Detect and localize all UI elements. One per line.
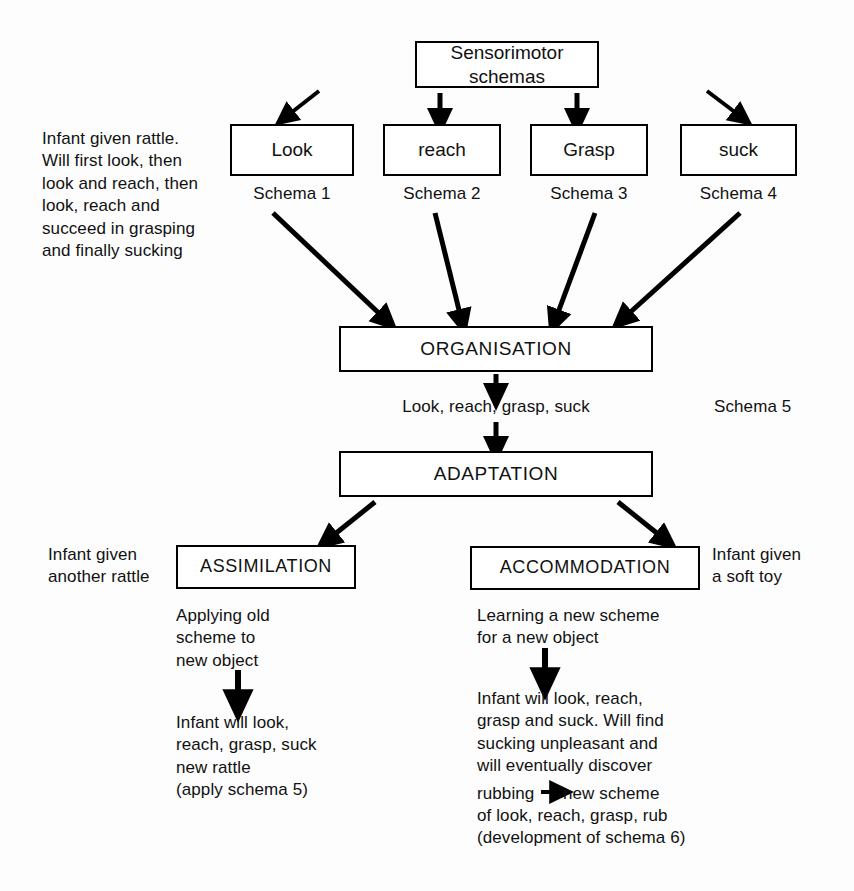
node-accommodation[interactable]: ACCOMMODATION — [470, 546, 700, 590]
node-reach-label: reach — [418, 138, 466, 161]
text-assimilation-description: Applying old scheme to new object — [176, 605, 366, 672]
caption-schema-5: Schema 5 — [714, 396, 791, 418]
note-infant-given-rattle: Infant given rattle. Will first look, th… — [42, 128, 247, 263]
node-reach[interactable]: reach — [383, 124, 501, 176]
node-assimilation-label: ASSIMILATION — [200, 556, 332, 578]
arrow-suck-to-organisation — [625, 213, 740, 317]
node-grasp-label: Grasp — [563, 138, 615, 161]
text-accommodation-outcome-new-scheme: new scheme — [563, 783, 763, 805]
node-adaptation[interactable]: ADAPTATION — [339, 451, 653, 497]
arrow-reach-to-organisation — [435, 213, 461, 318]
node-suck[interactable]: suck — [680, 124, 797, 176]
arrow-sensorimotor-to-suck — [707, 91, 740, 116]
note-infant-given-soft-toy: Infant given a soft toy — [712, 544, 842, 589]
node-organisation[interactable]: ORGANISATION — [339, 326, 653, 372]
node-assimilation[interactable]: ASSIMILATION — [176, 545, 356, 589]
node-sensorimotor-schemas-label: Sensorimotor schemas — [451, 41, 564, 87]
text-accommodation-outcome-part-2: of look, reach, grasp, rub (development … — [477, 805, 767, 850]
diagram-canvas: Sensorimotor schemas Look reach Grasp su… — [0, 0, 854, 891]
node-adaptation-label: ADAPTATION — [434, 462, 559, 485]
caption-schema-1: Schema 1 — [230, 183, 354, 205]
caption-schema-3: Schema 3 — [530, 183, 648, 205]
arrow-sensorimotor-to-look — [287, 91, 319, 116]
arrow-adaptation-to-assimilation — [330, 502, 375, 538]
node-look[interactable]: Look — [230, 124, 354, 176]
note-infant-given-another-rattle: Infant given another rattle — [48, 544, 178, 589]
caption-schema-4: Schema 4 — [680, 183, 797, 205]
node-grasp[interactable]: Grasp — [530, 124, 648, 176]
arrow-grasp-to-organisation — [556, 213, 595, 318]
node-accommodation-label: ACCOMMODATION — [500, 557, 670, 579]
arrow-look-to-organisation — [273, 213, 384, 318]
caption-schema-2: Schema 2 — [383, 183, 501, 205]
node-sensorimotor-schemas[interactable]: Sensorimotor schemas — [415, 41, 599, 88]
node-look-label: Look — [271, 138, 312, 161]
label-organisation-output: Look, reach, grasp, suck — [339, 396, 653, 418]
text-accommodation-outcome-rubbing: rubbing — [477, 783, 537, 805]
text-accommodation-description: Learning a new scheme for a new object — [477, 605, 747, 650]
node-organisation-label: ORGANISATION — [420, 337, 571, 360]
node-suck-label: suck — [719, 138, 758, 161]
arrow-adaptation-to-accommodation — [618, 502, 663, 538]
text-accommodation-outcome-part-1: Infant will look, reach, grasp and suck.… — [477, 688, 757, 778]
text-assimilation-outcome: Infant will look, reach, grasp, suck new… — [176, 712, 376, 802]
